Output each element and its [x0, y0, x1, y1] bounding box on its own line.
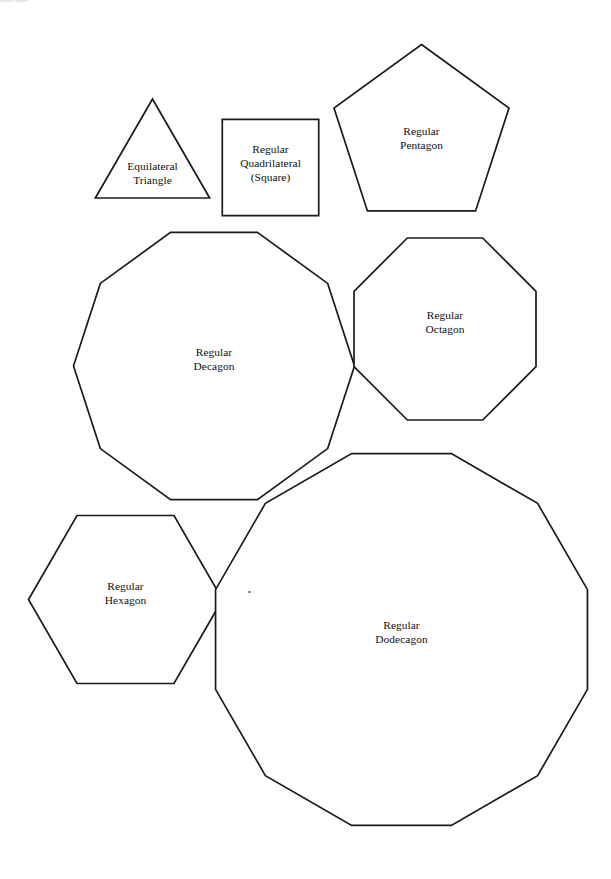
shape-regular-dodecagon[interactable]: RegularDodecagon	[216, 454, 588, 826]
regular-dodecagon-label-line: Dodecagon	[375, 633, 428, 645]
regular-quadrilateral-label-line: Regular	[252, 143, 289, 155]
regular-polygons-figure: EquilateralTriangleRegularQuadrilateral(…	[0, 0, 611, 879]
regular-pentagon-label-line: Pentagon	[400, 139, 443, 151]
regular-quadrilateral-label-line: Quadrilateral	[240, 157, 301, 169]
regular-dodecagon-label-line: Regular	[383, 619, 420, 631]
regular-quadrilateral-label-line: (Square)	[251, 171, 291, 184]
regular-hexagon-label-line: Hexagon	[105, 594, 147, 606]
equilateral-triangle-label-line: Equilateral	[127, 160, 178, 172]
equilateral-triangle-label-line: Triangle	[133, 174, 172, 186]
shape-equilateral-triangle[interactable]: EquilateralTriangle	[95, 99, 209, 198]
regular-hexagon-label-line: Regular	[107, 580, 144, 592]
regular-decagon-label-line: Regular	[196, 346, 233, 358]
scan-speck	[248, 591, 250, 593]
shape-regular-pentagon[interactable]: RegularPentagon	[334, 45, 509, 211]
shape-regular-decagon[interactable]: RegularDecagon	[74, 232, 355, 499]
shape-regular-octagon[interactable]: RegularOctagon	[354, 238, 536, 420]
regular-pentagon-label-line: Regular	[403, 125, 440, 137]
polygon-figure-page: Regular Polygons EquilateralTriangleRegu…	[0, 0, 611, 879]
shape-regular-quadrilateral[interactable]: RegularQuadrilateral(Square)	[222, 119, 318, 215]
regular-octagon-label-line: Octagon	[426, 323, 465, 335]
regular-octagon-label-line: Regular	[427, 309, 464, 321]
regular-decagon-label-line: Decagon	[194, 360, 235, 372]
shape-regular-hexagon[interactable]: RegularHexagon	[29, 516, 223, 684]
